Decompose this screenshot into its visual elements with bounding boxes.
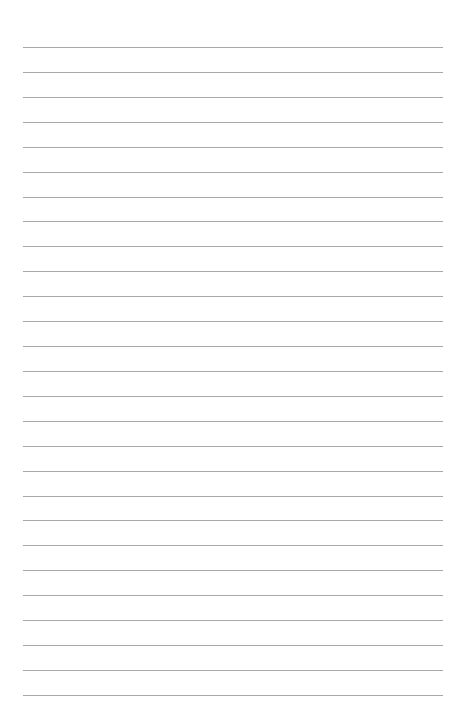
ruled-line	[23, 496, 443, 497]
ruled-line	[23, 421, 443, 422]
ruled-line	[23, 446, 443, 447]
ruled-line	[23, 371, 443, 372]
ruled-line	[23, 620, 443, 621]
ruled-line	[23, 645, 443, 646]
ruled-line	[23, 172, 443, 173]
ruled-line	[23, 545, 443, 546]
ruled-line	[23, 396, 443, 397]
ruled-line	[23, 670, 443, 671]
ruled-line	[23, 97, 443, 98]
lined-paper-page	[0, 0, 464, 723]
ruled-line	[23, 570, 443, 571]
ruled-line	[23, 321, 443, 322]
ruled-line	[23, 520, 443, 521]
ruled-line	[23, 595, 443, 596]
ruled-line	[23, 246, 443, 247]
ruled-line	[23, 122, 443, 123]
ruled-line	[23, 221, 443, 222]
ruled-line	[23, 695, 443, 696]
ruled-line	[23, 346, 443, 347]
ruled-line	[23, 147, 443, 148]
ruled-line	[23, 72, 443, 73]
ruled-line	[23, 471, 443, 472]
ruled-line	[23, 296, 443, 297]
ruled-line	[23, 197, 443, 198]
ruled-line	[23, 47, 443, 48]
ruled-line	[23, 271, 443, 272]
